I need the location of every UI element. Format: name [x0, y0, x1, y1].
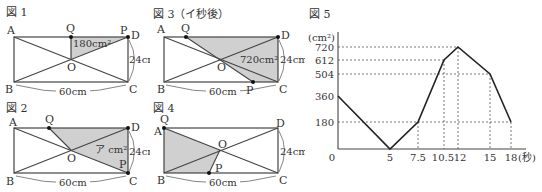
- label-c: C: [129, 175, 137, 188]
- x-tick-labels: 0 5 7.5 10.5 12 15 18: [329, 152, 518, 163]
- figure-1: 図 1 A Q P D O B C 180cm² 24cm 60cm: [0, 0, 150, 96]
- figure-4: 図 4 Q A D O P B C 24cm 60cm: [145, 96, 305, 192]
- svg-text:18: 18: [505, 152, 518, 163]
- label-d: D: [131, 29, 140, 42]
- label-b: B: [6, 175, 14, 188]
- label-a: A: [6, 24, 16, 37]
- label-q: Q: [45, 113, 54, 126]
- svg-text:720: 720: [315, 42, 334, 53]
- label-o: O: [217, 61, 226, 74]
- svg-text:15: 15: [484, 152, 497, 163]
- shaded-region: [164, 128, 220, 173]
- area-label: ア cm²: [95, 144, 127, 155]
- label-d: D: [131, 121, 140, 134]
- chart-title: 図 5: [309, 8, 331, 21]
- label-p: P: [119, 158, 127, 171]
- label-c: C: [279, 83, 287, 96]
- label-p: P: [120, 24, 128, 37]
- figure-2: 図 2 A Q D O P B C ア cm² 24cm 60cm: [0, 96, 150, 192]
- svg-text:612: 612: [315, 55, 334, 66]
- area-label: 720cm²: [240, 54, 278, 65]
- guide-lines: [338, 47, 511, 149]
- width-label: 60cm: [209, 86, 237, 96]
- y-tick-labels: 720 612 504 360 180: [315, 42, 334, 128]
- label-a: A: [8, 116, 18, 129]
- label-p: P: [246, 84, 254, 96]
- label-q: Q: [66, 22, 75, 35]
- svg-text:360: 360: [315, 91, 334, 102]
- label-a: A: [153, 125, 163, 138]
- label-o: O: [67, 61, 76, 74]
- width-label: 60cm: [59, 86, 87, 96]
- width-label: 60cm: [59, 177, 87, 188]
- svg-text:12: 12: [454, 152, 467, 163]
- svg-text:10.5: 10.5: [432, 152, 454, 163]
- label-d: D: [276, 117, 285, 130]
- figure-1-title: 図 1: [6, 6, 28, 19]
- svg-text:5: 5: [387, 152, 393, 163]
- figure-3: 図 3（イ秒後） A Q D O P B C 720cm² 24cm 60cm: [145, 0, 305, 96]
- label-b: B: [157, 83, 165, 96]
- label-p: P: [215, 162, 223, 175]
- label-b: B: [157, 174, 165, 187]
- data-line: [338, 47, 511, 149]
- label-c: C: [279, 174, 287, 187]
- svg-text:180: 180: [315, 117, 334, 128]
- width-label: 60cm: [209, 177, 237, 188]
- label-d: D: [281, 29, 290, 42]
- area-label: 180cm²: [73, 38, 111, 49]
- label-c: C: [129, 83, 137, 96]
- figure-3-title: 図 3（イ秒後）: [153, 7, 230, 21]
- label-o: O: [67, 152, 76, 165]
- svg-text:7.5: 7.5: [410, 152, 426, 163]
- label-a: A: [156, 23, 166, 36]
- figure-2-title: 図 2: [6, 102, 28, 115]
- x-axis-label: (秒): [518, 151, 536, 163]
- svg-text:504: 504: [315, 69, 334, 80]
- figure-5-chart: 図 5 (cm²) 720 612 504 360 180 0 5 7.5 10…: [300, 0, 542, 192]
- svg-text:0: 0: [329, 152, 335, 163]
- label-o: O: [218, 138, 227, 151]
- label-q: Q: [181, 22, 190, 35]
- label-b: B: [5, 83, 13, 96]
